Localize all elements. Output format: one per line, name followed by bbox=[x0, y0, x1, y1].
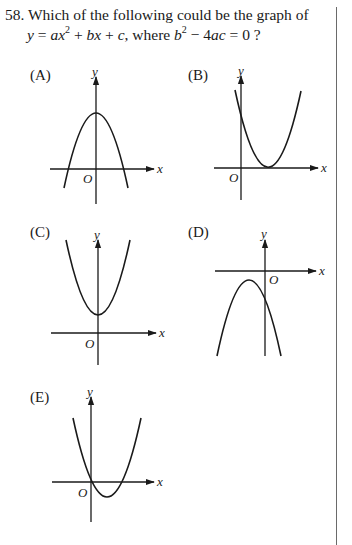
graph-d[interactable]: x y O bbox=[215, 226, 325, 356]
svg-text:O: O bbox=[85, 336, 95, 351]
graph-c[interactable]: x y O bbox=[51, 227, 165, 365]
svg-text:O: O bbox=[78, 485, 88, 500]
svg-text:x: x bbox=[320, 160, 327, 175]
svg-text:O: O bbox=[269, 272, 279, 287]
svg-text:y: y bbox=[90, 64, 98, 79]
svg-text:y: y bbox=[92, 227, 100, 242]
svg-text:y: y bbox=[259, 226, 267, 241]
graph-e[interactable]: x y O bbox=[52, 384, 163, 522]
svg-text:O: O bbox=[83, 171, 93, 186]
svg-text:x: x bbox=[156, 161, 163, 176]
svg-text:y: y bbox=[236, 63, 244, 78]
svg-text:y: y bbox=[85, 384, 93, 399]
svg-text:x: x bbox=[158, 325, 165, 340]
option-graphs: x y O x y O x y O x y O x y O bbox=[0, 0, 352, 545]
graph-a[interactable]: x y O bbox=[50, 64, 163, 204]
svg-text:O: O bbox=[229, 170, 239, 185]
svg-text:x: x bbox=[318, 263, 325, 278]
graph-b[interactable]: x y O bbox=[214, 63, 327, 200]
svg-text:x: x bbox=[156, 474, 163, 489]
